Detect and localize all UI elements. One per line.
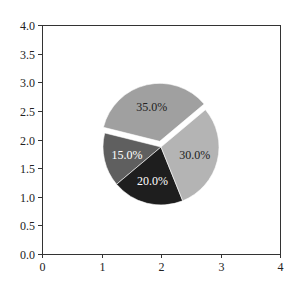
y-tick-label: 1.5: [20, 162, 35, 176]
x-tick-label: 4: [278, 260, 284, 274]
pie-chart: 35.0%15.0%20.0%30.0% 01234 0.00.51.01.52…: [0, 0, 299, 286]
pie-percentage-label: 20.0%: [137, 174, 168, 188]
y-axis-ticks: 0.00.51.01.52.02.53.03.54.0: [20, 19, 42, 262]
pie-percentage-label: 35.0%: [136, 100, 167, 114]
x-tick-label: 2: [159, 260, 165, 274]
y-tick-label: 0.0: [20, 248, 35, 262]
y-tick-label: 0.5: [20, 219, 35, 233]
x-tick-label: 3: [219, 260, 225, 274]
pie-percentage-label: 30.0%: [179, 148, 210, 162]
x-tick-label: 1: [100, 260, 106, 274]
y-tick-label: 3.0: [20, 76, 35, 90]
y-tick-label: 2.0: [20, 134, 35, 148]
x-axis-ticks: 01234: [40, 254, 284, 274]
y-tick-label: 4.0: [20, 19, 35, 33]
y-tick-label: 2.5: [20, 105, 35, 119]
y-tick-label: 1.0: [20, 191, 35, 205]
pie-percentage-label: 15.0%: [112, 148, 143, 162]
y-tick-label: 3.5: [20, 48, 35, 62]
x-tick-label: 0: [40, 260, 46, 274]
